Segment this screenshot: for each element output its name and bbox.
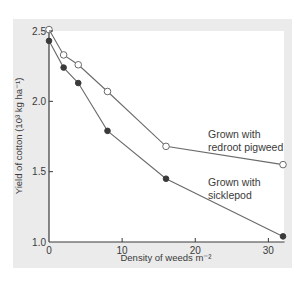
filled-circle-marker xyxy=(75,80,81,86)
open-circle-marker xyxy=(46,26,53,33)
open-circle-marker xyxy=(280,161,287,168)
open-circle-marker xyxy=(163,143,170,150)
x-axis-title: Density of weeds m⁻² xyxy=(120,252,211,263)
annotation-pigweed-line2: redroot pigweed xyxy=(208,141,283,153)
open-circle-marker xyxy=(75,61,82,68)
filled-circle-marker xyxy=(105,128,111,134)
y-tick-label: 2.0 xyxy=(32,96,46,107)
annotation-pigweed-line1: Grown with xyxy=(208,128,261,140)
chart: 01020301.01.52.02.5 Density of weeds m⁻²… xyxy=(0,0,305,285)
y-tick-label: 1.0 xyxy=(32,237,46,248)
annotation-sicklepod-line1: Grown with xyxy=(208,176,261,188)
x-tick-label: 30 xyxy=(263,245,275,256)
filled-circle-marker xyxy=(46,38,52,44)
filled-circle-marker xyxy=(163,176,169,182)
open-circle-marker xyxy=(60,52,67,59)
annotation-sicklepod-line2: sicklepod xyxy=(208,189,252,201)
filled-circle-marker xyxy=(280,234,286,240)
y-axis-title: Yield of cotton (10³ kg ha⁻¹) xyxy=(13,78,24,195)
open-circle-marker xyxy=(104,88,111,95)
x-tick-label: 0 xyxy=(46,245,52,256)
filled-circle-marker xyxy=(61,65,67,71)
y-tick-label: 1.5 xyxy=(32,166,46,177)
y-tick-label: 2.5 xyxy=(32,26,46,37)
